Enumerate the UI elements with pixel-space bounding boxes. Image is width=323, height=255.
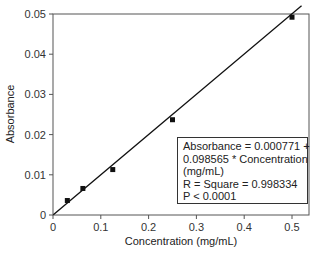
p-value-text: P < 0.0001: [183, 190, 302, 203]
chart: 00.010.020.030.040.05 00.10.20.30.40.5 C…: [0, 0, 323, 255]
equation-line-3: (mg/mL): [183, 165, 302, 178]
data-point-marker: [170, 117, 175, 122]
x-tick-label: 0.4: [237, 221, 252, 233]
x-axis-label: Concentration (mg/mL): [125, 235, 238, 247]
x-tick-label: 0: [50, 221, 56, 233]
y-tick-label: 0.05: [25, 8, 46, 20]
x-tick-label: 0.1: [93, 221, 108, 233]
x-tick-label: 0.5: [284, 221, 299, 233]
r-square-text: R = Square = 0.998334: [183, 178, 302, 191]
y-axis-ticks: 00.010.020.030.040.05: [25, 8, 53, 221]
y-axis-label: Absorbance: [4, 85, 16, 144]
x-tick-label: 0.3: [189, 221, 204, 233]
data-point-marker: [290, 15, 295, 20]
y-tick-label: 0.04: [25, 48, 46, 60]
y-tick-label: 0.02: [25, 129, 46, 141]
equation-line-1: Absorbance = 0.000771 +: [183, 140, 302, 153]
data-point-marker: [65, 198, 70, 203]
y-tick-label: 0: [40, 209, 46, 221]
regression-equation-box: Absorbance = 0.000771 + 0.098565 * Conce…: [177, 137, 308, 204]
x-tick-label: 0.2: [141, 221, 156, 233]
y-tick-label: 0.03: [25, 88, 46, 100]
equation-line-2: 0.098565 * Concentration: [183, 153, 302, 166]
x-axis-ticks: 00.10.20.30.40.5: [50, 215, 300, 233]
y-tick-label: 0.01: [25, 169, 46, 181]
data-point-marker: [110, 167, 115, 172]
data-point-marker: [80, 186, 85, 191]
